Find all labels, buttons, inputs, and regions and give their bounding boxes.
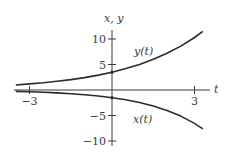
x-tick-label: −3 [21,95,37,108]
axes [14,30,210,146]
t-axis-label: t [214,83,219,96]
y-tick-label: 5 [99,59,106,72]
curve-x [16,91,203,128]
y-tick-label: −10 [83,135,106,148]
series-label-y: y(t) [133,45,153,58]
x-tick-label: 3 [191,95,198,108]
intercept-point [110,71,113,74]
y-tick-label: 10 [92,33,106,46]
y-axis-label: x, y [104,12,124,25]
chart: −33105−5−10 x, y t y(t) x(t) [0,0,230,158]
series-label-x: x(t) [133,113,152,126]
intercept-point [110,96,113,99]
y-tick-label: −5 [90,110,106,123]
curves [16,31,203,128]
